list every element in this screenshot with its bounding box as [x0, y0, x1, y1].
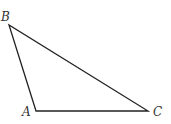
vertex-label-a: A — [21, 105, 31, 119]
triangle-abc — [9, 25, 148, 111]
triangle-diagram: B A C — [0, 0, 171, 124]
vertex-label-c: C — [153, 105, 162, 119]
vertex-label-b: B — [0, 10, 10, 24]
